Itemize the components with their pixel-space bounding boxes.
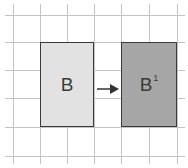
grid-line-vertical bbox=[94, 4, 95, 164]
superscript: 1 bbox=[153, 73, 158, 83]
label-b-prime: B1 bbox=[140, 75, 159, 94]
arrow-right-icon bbox=[97, 84, 119, 94]
grid-line-horizontal bbox=[5, 156, 185, 157]
rectangle-b-prime: B1 bbox=[121, 42, 177, 127]
grid-line-vertical bbox=[13, 4, 14, 164]
grid-line-vertical bbox=[177, 4, 178, 164]
grid-line-horizontal bbox=[5, 127, 185, 128]
diagram-canvas: B B1 bbox=[0, 0, 188, 168]
grid-line-horizontal bbox=[5, 15, 185, 16]
rectangle-b: B bbox=[40, 42, 94, 127]
label-b: B bbox=[61, 75, 74, 94]
